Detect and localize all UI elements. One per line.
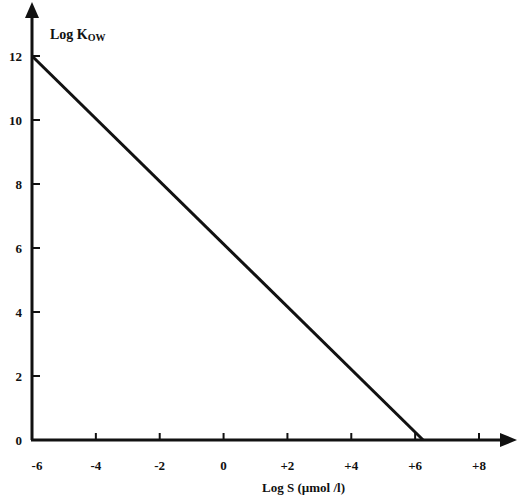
- chart: 024681012 -6-4-20+2+4+6+8 Log KOW Log S …: [0, 0, 529, 503]
- y-tick-label: 12: [9, 49, 22, 64]
- x-tick-label: -2: [154, 458, 165, 473]
- x-axis-label: Log S (µmol /l): [262, 480, 345, 495]
- data-line: [32, 56, 423, 440]
- y-tick-label: 0: [16, 433, 23, 448]
- x-tick-label: +2: [280, 458, 294, 473]
- x-axis: [31, 433, 517, 447]
- y-axis-arrow-icon: [25, 2, 39, 18]
- y-tick-label: 2: [16, 369, 23, 384]
- y-tick-label: 10: [9, 113, 22, 128]
- x-tick-label: 0: [220, 458, 227, 473]
- x-tick-label: -4: [90, 458, 101, 473]
- y-axis-label: Log KOW: [50, 27, 106, 43]
- y-axis: [25, 2, 39, 440]
- x-tick-label: +6: [408, 458, 422, 473]
- y-tick-label: 8: [16, 177, 23, 192]
- x-tick-label: +4: [344, 458, 358, 473]
- x-axis-arrow-icon: [500, 433, 517, 447]
- y-tick-label: 6: [16, 241, 23, 256]
- x-tick-label: +8: [472, 458, 486, 473]
- y-tick-label: 4: [16, 305, 23, 320]
- x-tick-label: -6: [32, 458, 43, 473]
- y-ticks: 024681012: [9, 49, 40, 448]
